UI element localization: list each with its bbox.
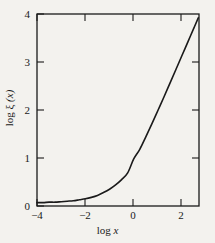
y-axis-title-argument: (x) (3, 89, 15, 101)
y-tick-label-1: 1 (16, 153, 30, 164)
y-axis-title-prefix: log (3, 109, 15, 126)
y-axis-title: log ξ (x) (3, 89, 15, 126)
x-tick-label-3: 2 (178, 210, 184, 221)
chart-figure: −4 −2 0 2 0 1 2 3 4 log x log ξ (x) (0, 0, 215, 243)
x-axis-title-variable: x (113, 224, 118, 236)
y-tick-label-0: 0 (16, 201, 30, 212)
y-tick-label-2: 2 (16, 105, 30, 116)
y-axis-title-symbol: ξ (3, 104, 15, 109)
x-axis-title: log x (0, 224, 215, 236)
x-tick-label-0: −4 (31, 210, 43, 221)
plot-canvas (0, 0, 215, 243)
x-axis-title-prefix: log (97, 224, 114, 236)
y-axis-title-wrapper: log ξ (x) (0, 0, 18, 215)
y-tick-label-4: 4 (16, 9, 30, 20)
y-tick-label-3: 3 (16, 57, 30, 68)
x-tick-label-2: 0 (130, 210, 136, 221)
x-tick-label-1: −2 (79, 210, 91, 221)
plot-background (37, 14, 199, 206)
